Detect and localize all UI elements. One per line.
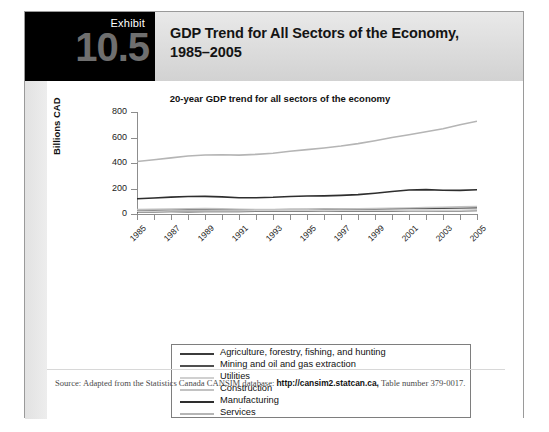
exhibit-figure: Exhibit 10.5 GDP Trend for All Sectors o… — [24, 11, 524, 418]
exhibit-title: GDP Trend for All Sectors of the Economy… — [170, 24, 500, 62]
gdp-line-chart: 20-year GDP trend for all sectors of the… — [55, 93, 505, 333]
x-tick — [273, 215, 274, 220]
x-tick — [239, 215, 240, 220]
series-line — [137, 121, 477, 161]
source-url: http://cansim2.statcan.ca, — [276, 378, 378, 388]
x-tick — [137, 215, 138, 220]
x-tick — [375, 215, 376, 220]
x-tick-label: 1987 — [154, 223, 182, 251]
x-tick — [460, 215, 461, 220]
legend-swatch — [180, 365, 214, 367]
x-tick — [477, 215, 478, 220]
x-tick — [341, 215, 342, 220]
legend-label: Services — [220, 407, 256, 417]
x-tick-label: 1989 — [188, 223, 216, 251]
x-tick — [358, 215, 359, 220]
source-suffix: Table number 379-0017. — [379, 378, 466, 388]
legend-label: Manufacturing — [220, 395, 279, 405]
legend-swatch — [180, 401, 214, 403]
legend-swatch — [180, 413, 214, 415]
x-tick — [256, 215, 257, 220]
series-line — [137, 190, 477, 199]
y-tick-label: 800 — [97, 107, 127, 116]
x-tick-label: 1995 — [290, 223, 318, 251]
y-tick-label: 400 — [97, 158, 127, 167]
legend-swatch — [180, 353, 214, 355]
x-tick — [290, 215, 291, 220]
legend-swatch — [180, 389, 214, 391]
legend-item: Agriculture, forestry, fishing, and hunt… — [172, 348, 470, 359]
x-tick — [443, 215, 444, 220]
x-tick — [205, 215, 206, 220]
x-tick — [324, 215, 325, 220]
source-prefix: Source: Adapted from the Statistics Cana… — [55, 378, 276, 388]
legend-item: Services — [172, 408, 470, 419]
y-tick-label: 0 — [97, 209, 127, 218]
x-tick-label: 2003 — [426, 223, 454, 251]
y-tick-label: 200 — [97, 184, 127, 193]
exhibit-number-box: Exhibit 10.5 — [25, 12, 155, 81]
x-tick — [188, 215, 189, 220]
exhibit-number: 10.5 — [75, 27, 149, 67]
chart-title: 20-year GDP trend for all sectors of the… — [115, 93, 445, 104]
x-tick — [392, 215, 393, 220]
x-tick — [307, 215, 308, 220]
x-tick-label: 1999 — [358, 223, 386, 251]
x-tick-label: 1991 — [222, 223, 250, 251]
left-margin-strip — [25, 81, 47, 419]
x-tick — [409, 215, 410, 220]
x-tick — [171, 215, 172, 220]
legend-label: Mining and oil and gas extraction — [220, 359, 356, 369]
x-tick — [154, 215, 155, 220]
y-axis-ticks: 0200400600800 — [55, 93, 137, 233]
source-note: Source: Adapted from the Statistics Cana… — [55, 377, 485, 389]
x-tick-label: 2001 — [392, 223, 420, 251]
x-tick-label: 1997 — [324, 223, 352, 251]
legend-item: Manufacturing — [172, 396, 470, 407]
legend-label: Agriculture, forestry, fishing, and hunt… — [220, 347, 386, 357]
y-tick-label: 600 — [97, 133, 127, 142]
source-divider — [47, 369, 505, 370]
x-tick — [426, 215, 427, 220]
exhibit-header: Exhibit 10.5 GDP Trend for All Sectors o… — [25, 12, 523, 81]
x-tick-label: 1993 — [256, 223, 284, 251]
x-tick-label: 2005 — [460, 223, 488, 251]
exhibit-body: 20-year GDP trend for all sectors of the… — [25, 81, 523, 419]
plot-lines — [137, 112, 477, 214]
x-tick — [222, 215, 223, 220]
